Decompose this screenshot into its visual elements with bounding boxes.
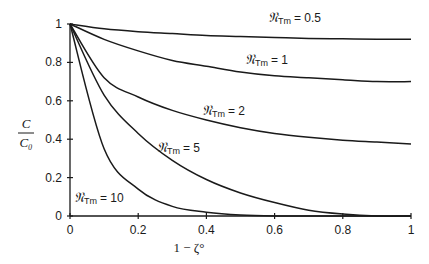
x-tick-label: 0.2	[130, 223, 147, 237]
x-label: 1 − ζ°	[174, 240, 205, 255]
y-tick-label: 0.6	[45, 94, 62, 108]
y-tick-label: 0	[55, 209, 62, 223]
x-tick-label: 0	[67, 223, 74, 237]
axes	[70, 24, 411, 216]
svg-text:𝔑Tm= 10: 𝔑Tm= 10	[74, 189, 124, 206]
series-curve-1	[70, 24, 411, 82]
series-label-10: 𝔑Tm= 10	[74, 189, 124, 206]
y-label-numerator: C	[22, 116, 31, 131]
svg-text:𝔑Tm= 2: 𝔑Tm= 2	[202, 102, 245, 119]
series-curves	[70, 24, 411, 216]
svg-text:𝔑Tm= 5: 𝔑Tm= 5	[157, 139, 200, 156]
y-label-denominator: C₀	[19, 135, 32, 150]
x-tick-label: 0.8	[334, 223, 351, 237]
series-label-1: 𝔑Tm= 1	[245, 51, 288, 68]
svg-text:𝔑Tm= 0.5: 𝔑Tm= 0.5	[268, 9, 321, 26]
y-tick-label: 0.4	[45, 132, 62, 146]
x-tick-label: 1	[408, 223, 415, 237]
y-tick-label: 1	[55, 17, 62, 31]
svg-text:𝔑Tm= 1: 𝔑Tm= 1	[245, 51, 288, 68]
series-label-2: 𝔑Tm= 2	[202, 102, 245, 119]
x-tick-label: 0.6	[266, 223, 283, 237]
line-chart: 00.20.40.60.81 00.20.40.60.81 C C₀ 1 − ζ…	[0, 0, 429, 264]
series-curve-4	[70, 24, 411, 216]
series-curve-3	[70, 24, 411, 216]
x-tick-label: 0.4	[198, 223, 215, 237]
series-curve-0	[70, 24, 411, 39]
y-tick-label: 0.8	[45, 55, 62, 69]
series-label-0.5: 𝔑Tm= 0.5	[268, 9, 321, 26]
y-tick-label: 0.2	[45, 171, 62, 185]
series-label-5: 𝔑Tm= 5	[157, 139, 200, 156]
series-curve-2	[70, 24, 411, 144]
y-ticks: 00.20.40.60.81	[45, 17, 73, 223]
